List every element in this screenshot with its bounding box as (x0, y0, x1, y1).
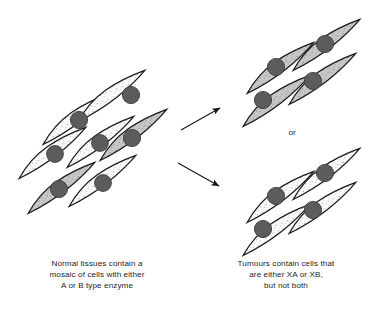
or-label: or (252, 128, 332, 137)
nucleus-n4 (123, 129, 140, 146)
nucleus-n3 (92, 135, 109, 152)
nucleus-n2 (70, 111, 87, 128)
nucleus-b1 (316, 164, 333, 181)
nucleus-b4 (254, 220, 271, 237)
tumour-xa-cluster (235, 19, 369, 126)
arrow-to-tumour-xb (178, 163, 219, 186)
arrow-to-tumour-xa (181, 108, 220, 130)
nucleus-a4 (254, 91, 271, 108)
nucleus-b3 (304, 201, 321, 218)
nucleus-a2 (267, 58, 284, 75)
nucleus-a1 (316, 35, 333, 52)
nucleus-b2 (267, 187, 284, 204)
arrows-group (178, 108, 220, 186)
nucleus-n7 (95, 175, 112, 192)
nucleus-n6 (50, 180, 67, 197)
nucleus-n5 (47, 146, 64, 163)
caption-normal-tissue: Normal tissues contain a mosaic of cells… (12, 258, 182, 292)
caption-tumour: Tumours contain cells that are either XA… (198, 258, 374, 292)
diagram-canvas: or Normal tissues contain a mosaic of ce… (0, 0, 383, 314)
nucleus-a3 (304, 72, 321, 89)
nucleus-n1 (122, 86, 139, 103)
tumour-xb-cluster (235, 148, 369, 255)
normal-tissue-cluster (11, 70, 176, 213)
